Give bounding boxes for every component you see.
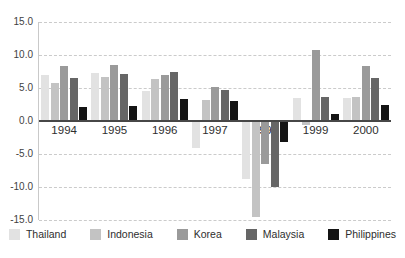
bar-korea-1997: [211, 87, 219, 121]
bar-malaysia-1995: [120, 74, 128, 121]
y-tick-label-0: 0.0: [0, 115, 33, 126]
legend-swatch-thailand: [9, 229, 20, 240]
x-category-label-1996: 1996: [140, 124, 190, 136]
bar-thailand-1994: [41, 75, 49, 121]
gridline-15: [39, 22, 391, 23]
bar-malaysia-1997: [221, 90, 229, 121]
y-tick-label--5: -5.0: [0, 148, 33, 159]
bar-thailand-2000: [343, 98, 351, 121]
gridline--10: [39, 187, 391, 188]
legend-item-philippines: Philippines: [328, 228, 396, 240]
bar-chart: 1994199519961997199819992000 ThailandInd…: [0, 0, 405, 258]
bar-indonesia-1996: [151, 79, 159, 121]
x-category-label-1995: 1995: [89, 124, 139, 136]
legend-label-indonesia: Indonesia: [107, 228, 153, 240]
gridline--15: [39, 220, 391, 221]
bar-korea-2000: [362, 66, 370, 121]
legend-swatch-philippines: [328, 229, 339, 240]
legend-label-malaysia: Malaysia: [263, 228, 304, 240]
y-tick-label-15: 15.0: [0, 16, 33, 27]
bar-philippines-2000: [381, 105, 389, 121]
y-tick-label-10: 10.0: [0, 49, 33, 60]
legend-swatch-malaysia: [246, 229, 257, 240]
plot-area: 1994199519961997199819992000: [38, 22, 391, 220]
bar-thailand-1998: [242, 122, 250, 179]
bar-thailand-1996: [142, 91, 150, 121]
bar-indonesia-1994: [51, 83, 59, 121]
bar-malaysia-1994: [70, 78, 78, 121]
bar-indonesia-1997: [202, 100, 210, 121]
bar-korea-1995: [110, 65, 118, 121]
bar-korea-1998: [261, 122, 269, 164]
legend-item-malaysia: Malaysia: [246, 228, 304, 240]
bar-indonesia-2000: [352, 97, 360, 121]
legend-item-indonesia: Indonesia: [90, 228, 153, 240]
legend: ThailandIndonesiaKoreaMalaysiaPhilippine…: [0, 228, 405, 240]
legend-label-philippines: Philippines: [345, 228, 396, 240]
bar-philippines-1996: [180, 99, 188, 121]
bar-philippines-1994: [79, 107, 87, 121]
bar-korea-1996: [161, 75, 169, 121]
legend-item-thailand: Thailand: [9, 228, 66, 240]
y-tick-label--15: -15.0: [0, 214, 33, 225]
bar-malaysia-1998: [271, 122, 279, 187]
legend-label-korea: Korea: [194, 228, 222, 240]
bar-indonesia-1999: [302, 122, 310, 125]
legend-swatch-korea: [177, 229, 188, 240]
bar-indonesia-1995: [101, 77, 109, 121]
bar-philippines-1995: [129, 106, 137, 121]
bar-malaysia-1996: [170, 72, 178, 121]
bar-thailand-1997: [192, 122, 200, 148]
bar-malaysia-1999: [321, 97, 329, 121]
bar-malaysia-2000: [371, 78, 379, 121]
bar-thailand-1999: [293, 98, 301, 121]
gridline-10: [39, 55, 391, 56]
bar-philippines-1998: [280, 122, 288, 142]
y-tick-label-5: 5.0: [0, 82, 33, 93]
x-category-label-1999: 1999: [290, 124, 340, 136]
bar-philippines-1997: [230, 101, 238, 121]
bar-korea-1994: [60, 66, 68, 121]
y-tick-label--10: -10.0: [0, 181, 33, 192]
bar-thailand-1995: [91, 73, 99, 121]
bar-indonesia-1998: [252, 122, 260, 217]
legend-label-thailand: Thailand: [26, 228, 66, 240]
legend-swatch-indonesia: [90, 229, 101, 240]
gridline--5: [39, 154, 391, 155]
x-category-label-1994: 1994: [39, 124, 89, 136]
bar-korea-1999: [312, 50, 320, 121]
x-category-label-2000: 2000: [341, 124, 391, 136]
zero-axis-line: [39, 120, 391, 122]
legend-item-korea: Korea: [177, 228, 222, 240]
